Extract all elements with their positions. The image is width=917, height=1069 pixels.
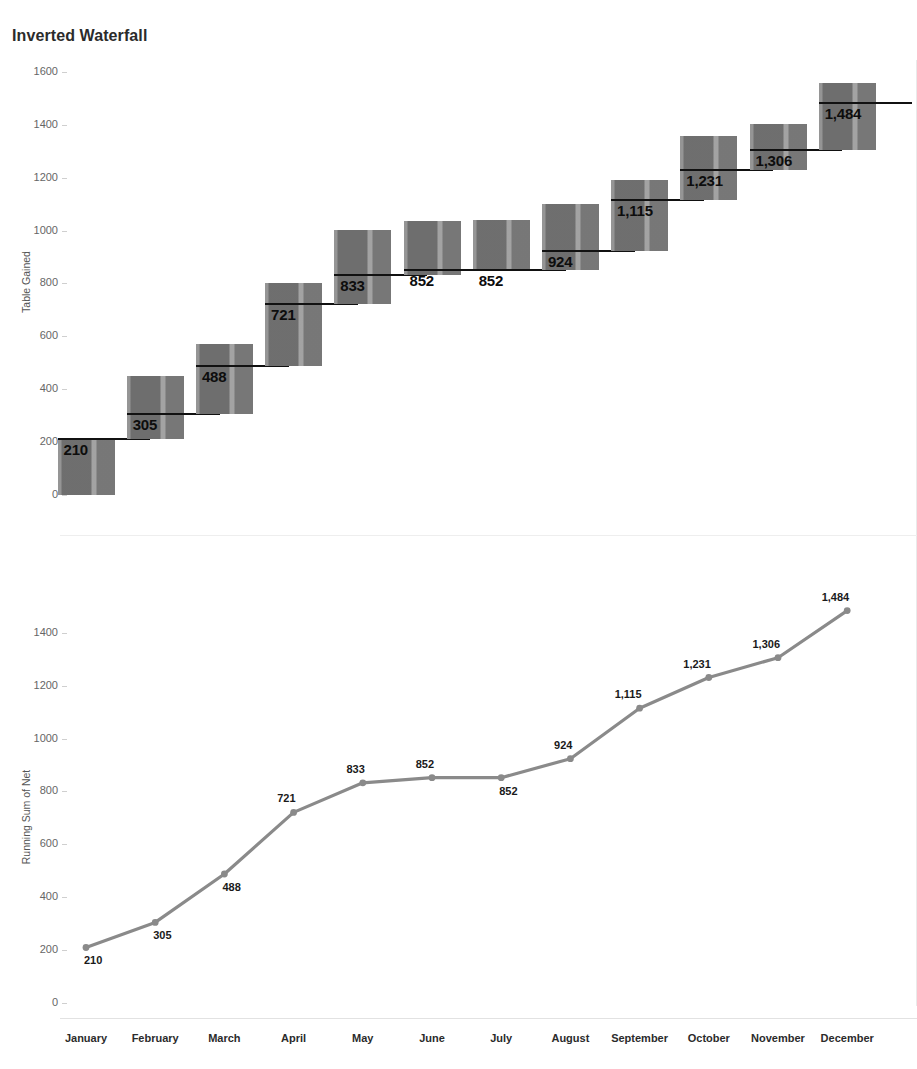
running-sum-point-label: 1,231 (651, 658, 711, 670)
waterfall-y-tick-label: 800 (18, 277, 58, 288)
visualization-canvas: Inverted Waterfall Table Gained 16001400… (0, 0, 917, 1069)
running-sum-marker[interactable] (567, 755, 574, 762)
waterfall-bar-label: 1,115 (617, 202, 653, 219)
x-axis-tick-label[interactable]: February (115, 1032, 195, 1044)
x-axis-tick-label[interactable]: April (254, 1032, 334, 1044)
running-sum-marker[interactable] (844, 607, 851, 614)
waterfall-y-tick-mark (62, 336, 67, 337)
x-axis-tick-label[interactable]: September (600, 1032, 680, 1044)
waterfall-y-tick-label: 600 (18, 330, 58, 341)
running-sum-chart-panel: Running Sum of Net 140012001000800600400… (0, 536, 917, 1069)
x-axis-tick-label[interactable]: July (461, 1032, 541, 1044)
running-sum-marker[interactable] (221, 871, 228, 878)
running-sum-marker[interactable] (290, 809, 297, 816)
waterfall-bar-label: 924 (548, 253, 572, 270)
waterfall-y-tick-label: 1400 (18, 119, 58, 130)
waterfall-y-tick-mark (62, 72, 67, 73)
running-sum-marker[interactable] (429, 774, 436, 781)
x-axis-tick-label[interactable]: December (807, 1032, 887, 1044)
waterfall-bar-label: 488 (202, 368, 226, 385)
waterfall-y-tick-label: 400 (18, 383, 58, 394)
waterfall-bar[interactable] (265, 283, 322, 365)
running-sum-point-label: 1,115 (582, 688, 642, 700)
running-sum-point-label: 852 (499, 785, 559, 797)
waterfall-bar-label: 833 (340, 277, 364, 294)
waterfall-y-tick-label: 200 (18, 436, 58, 447)
running-sum-point-label: 1,484 (789, 591, 849, 603)
x-axis-tick-label[interactable]: March (184, 1032, 264, 1044)
x-axis-tick-label[interactable]: August (530, 1032, 610, 1044)
running-sum-marker[interactable] (705, 674, 712, 681)
page-title: Inverted Waterfall (12, 27, 147, 45)
running-sum-marker[interactable] (359, 779, 366, 786)
running-sum-marker[interactable] (152, 919, 159, 926)
x-axis-tick-label[interactable]: May (323, 1032, 403, 1044)
x-axis-line (60, 1018, 917, 1019)
waterfall-y-tick-label: 0 (18, 489, 58, 500)
running-sum-point-label: 721 (236, 792, 296, 804)
waterfall-bar-label: 1,231 (686, 172, 723, 189)
running-sum-point-label: 305 (153, 929, 213, 941)
running-sum-point-label: 833 (305, 763, 365, 775)
waterfall-y-tick-mark (62, 125, 67, 126)
running-sum-point-label: 1,306 (720, 638, 780, 650)
waterfall-bar-label: 852 (410, 272, 434, 289)
waterfall-y-tick-mark (62, 283, 67, 284)
running-sum-point-label: 488 (222, 881, 282, 893)
x-axis-tick-label[interactable]: October (669, 1032, 749, 1044)
waterfall-bar-label: 1,306 (756, 152, 793, 169)
waterfall-chart-panel: Table Gained 160014001200100080060040020… (0, 60, 917, 535)
waterfall-y-tick-mark (62, 231, 67, 232)
running-sum-polyline (86, 611, 847, 948)
running-sum-line-svg (0, 536, 917, 1069)
x-axis-tick-label[interactable]: June (392, 1032, 472, 1044)
waterfall-bar-label: 1,484 (825, 105, 862, 122)
waterfall-bar-label: 210 (64, 441, 88, 458)
running-sum-marker[interactable] (636, 705, 643, 712)
waterfall-bar-label: 305 (133, 416, 157, 433)
running-sum-marker[interactable] (83, 944, 90, 951)
x-axis-tick-label[interactable]: January (46, 1032, 126, 1044)
running-sum-point-label: 924 (512, 739, 572, 751)
waterfall-y-tick-mark (62, 389, 67, 390)
waterfall-bar-label: 852 (479, 272, 503, 289)
waterfall-y-tick-label: 1000 (18, 225, 58, 236)
running-sum-point-label: 852 (374, 758, 434, 770)
running-sum-marker[interactable] (498, 774, 505, 781)
waterfall-y-tick-label: 1200 (18, 172, 58, 183)
waterfall-bar-label: 721 (271, 306, 295, 323)
waterfall-y-tick-mark (62, 178, 67, 179)
waterfall-reference-line (819, 102, 912, 104)
running-sum-marker[interactable] (775, 654, 782, 661)
running-sum-point-label: 210 (84, 954, 144, 966)
waterfall-bar[interactable] (404, 221, 461, 275)
waterfall-y-tick-mark (62, 495, 67, 496)
waterfall-bar[interactable] (473, 220, 530, 270)
waterfall-y-tick-label: 1600 (18, 66, 58, 77)
x-axis-tick-label[interactable]: November (738, 1032, 818, 1044)
